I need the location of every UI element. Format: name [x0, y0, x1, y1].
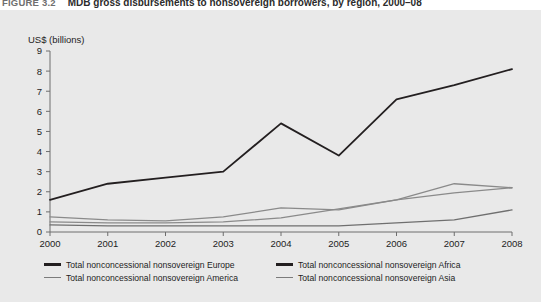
- legend-label-africa: Total nonconcessional nonsovereign Afric…: [298, 260, 460, 270]
- y-tick-label: 3: [37, 166, 42, 177]
- legend-item-asia: Total nonconcessional nonsovereign Asia: [276, 271, 514, 284]
- series-line: [50, 188, 512, 223]
- legend-swatch-line-icon: [276, 277, 293, 279]
- legend-item-africa: Total nonconcessional nonsovereign Afric…: [276, 258, 514, 271]
- y-tick-label: 4: [37, 146, 42, 157]
- legend-swatch-line-icon: [44, 263, 61, 265]
- y-tick-label: 0: [37, 226, 42, 237]
- x-tick-label: 2001: [97, 238, 118, 249]
- series-line: [50, 184, 512, 221]
- legend-swatch-line-icon: [276, 263, 293, 265]
- x-tick-label: 2007: [444, 238, 465, 249]
- series-line: [50, 69, 512, 200]
- y-tick-label: 6: [37, 106, 42, 117]
- figure-title: MDB gross disbursements to nonsovereign …: [68, 0, 422, 8]
- figure-page: FIGURE 3.2 MDB gross disbursements to no…: [0, 0, 541, 302]
- x-tick-label: 2002: [155, 238, 176, 249]
- legend-item-europe: Total nonconcessional nonsovereign Europ…: [44, 258, 276, 271]
- legend-label-asia: Total nonconcessional nonsovereign Asia: [298, 273, 455, 283]
- y-tick-label: 2: [37, 186, 42, 197]
- figure-number: FIGURE 3.2: [2, 0, 56, 8]
- x-tick-label: 2006: [386, 238, 407, 249]
- x-tick-label: 2000: [39, 238, 60, 249]
- y-tick-label: 7: [37, 86, 42, 97]
- x-tick-label: 2005: [328, 238, 349, 249]
- x-tick-label: 2004: [270, 238, 291, 249]
- x-tick-label: 2003: [213, 238, 234, 249]
- y-tick-label: 1: [37, 206, 42, 217]
- chart-panel: US$ (billions) 0123456789200020012002200…: [0, 10, 541, 302]
- y-tick-label: 9: [37, 45, 42, 56]
- chart-legend: Total nonconcessional nonsovereign Europ…: [44, 258, 514, 284]
- legend-item-america: Total nonconcessional nonsovereign Ameri…: [44, 271, 276, 284]
- legend-swatch-line-icon: [44, 277, 61, 279]
- y-tick-label: 8: [37, 66, 42, 77]
- legend-label-europe: Total nonconcessional nonsovereign Europ…: [66, 260, 235, 270]
- y-tick-label: 5: [37, 126, 42, 137]
- legend-label-america: Total nonconcessional nonsovereign Ameri…: [66, 273, 238, 283]
- x-tick-label: 2008: [501, 238, 522, 249]
- figure-caption: FIGURE 3.2 MDB gross disbursements to no…: [0, 0, 541, 10]
